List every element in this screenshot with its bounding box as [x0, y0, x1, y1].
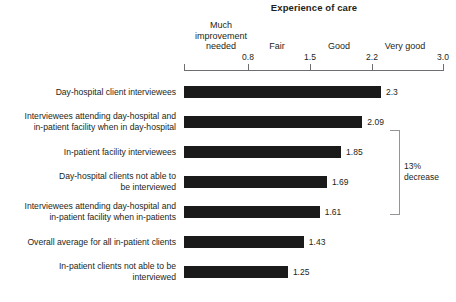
bar-row: Day-hospital clients not able to be inte… — [0, 167, 456, 197]
bar — [184, 206, 320, 218]
bar-value-label: 1.43 — [309, 236, 326, 248]
x-axis-label-2-2: 2.2 — [357, 52, 387, 62]
bar-row-label: In-patient clients not able to be interv… — [0, 261, 176, 283]
bar-value-label: 1.25 — [293, 266, 310, 278]
bar-row: In-patient facility interviewees 1.85 — [0, 137, 456, 167]
bar — [184, 86, 381, 98]
bar-row-label-line-1: Day-hospital client interviewees — [0, 87, 176, 98]
bar-row-label-line-1: Overall average for all in-patient clien… — [0, 237, 176, 248]
bar-row-label: In-patient facility interviewees — [0, 147, 176, 158]
bar-row-label-line-2: in-patient facility when in-patients — [0, 212, 176, 223]
bar-row: Interviewees attending day-hospital and … — [0, 197, 456, 227]
bar-value-label: 1.61 — [325, 206, 342, 218]
x-axis-tick-2-2 — [372, 64, 373, 71]
bar-value-label: 1.85 — [346, 146, 363, 158]
x-axis-tick-origin — [184, 64, 185, 71]
bar-row-label-line-1: Interviewees attending day-hospital and — [0, 201, 176, 212]
bar-row-label-line-2: in-patient facility when in day-hospital — [0, 122, 176, 133]
bar-value-label: 2.3 — [386, 86, 398, 98]
scale-band-good: Good — [308, 41, 370, 52]
bar — [184, 236, 304, 248]
bar-row-label: Day-hospital client interviewees — [0, 87, 176, 98]
bar-row-label: Overall average for all in-patient clien… — [0, 237, 176, 248]
scale-band-fair: Fair — [246, 41, 308, 52]
x-axis-label-1-5: 1.5 — [295, 52, 325, 62]
bar — [184, 146, 341, 158]
scale-band-line-1: Much — [186, 20, 256, 31]
bar-row: Day-hospital client interviewees 2.3 — [0, 77, 456, 107]
bar-row: Interviewees attending day-hospital and … — [0, 107, 456, 137]
bar-row-label: Interviewees attending day-hospital and … — [0, 201, 176, 223]
bar-row-label-line-2: interviewed — [0, 272, 176, 283]
x-axis-line — [184, 70, 443, 71]
scale-band-very-good: Very good — [366, 41, 444, 52]
bar-row-label-line-1: In-patient clients not able to be — [0, 261, 176, 272]
chart-title: Experience of care — [184, 2, 444, 13]
bar-row-label-line-1: In-patient facility interviewees — [0, 147, 176, 158]
chart-canvas: Experience of care Much improvement need… — [0, 0, 456, 302]
bar — [184, 266, 288, 278]
scale-band-line-2: improvement — [186, 31, 256, 42]
bar-value-label: 1.69 — [332, 176, 349, 188]
x-axis-label-0-8: 0.8 — [233, 52, 263, 62]
bar-row-label-line-1: Interviewees attending day-hospital and — [0, 111, 176, 122]
decrease-annotation-line-1: 13% — [404, 161, 439, 172]
bar — [184, 116, 362, 128]
decrease-bracket — [390, 130, 400, 215]
decrease-annotation-line-2: decrease — [404, 172, 439, 183]
bar-row-label: Day-hospital clients not able to be inte… — [0, 171, 176, 193]
bar-row-label: Interviewees attending day-hospital and … — [0, 111, 176, 133]
bar-row: In-patient clients not able to be interv… — [0, 257, 456, 287]
bar-row-label-line-1: Day-hospital clients not able to — [0, 171, 176, 182]
x-axis-label-3-0: 3.0 — [428, 52, 456, 62]
x-axis-tick-0-8 — [248, 64, 249, 71]
bar-row-label-line-2: be interviewed — [0, 182, 176, 193]
x-axis-tick-1-5 — [310, 64, 311, 71]
x-axis-tick-3-0 — [443, 64, 444, 71]
bar — [184, 176, 327, 188]
bar-row: Overall average for all in-patient clien… — [0, 227, 456, 257]
bar-value-label: 2.09 — [367, 116, 384, 128]
decrease-annotation-label: 13% decrease — [404, 161, 439, 183]
